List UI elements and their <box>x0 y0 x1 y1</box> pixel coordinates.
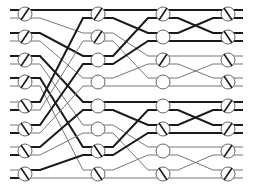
link-line <box>163 64 228 78</box>
link-line <box>163 155 228 170</box>
link-line <box>25 64 98 125</box>
link-line <box>98 133 163 170</box>
link-line <box>25 155 98 170</box>
switch-node <box>156 75 170 89</box>
link-line <box>98 18 163 33</box>
switch-node <box>156 30 170 44</box>
link-line <box>25 133 98 155</box>
link-line <box>98 64 163 78</box>
link-line <box>25 18 98 102</box>
switch-node <box>156 99 170 113</box>
link-line <box>163 18 228 33</box>
link-line <box>25 33 98 56</box>
switch-node <box>91 53 105 67</box>
switch-node <box>91 122 105 136</box>
link-line <box>98 110 163 125</box>
link-line <box>25 41 98 110</box>
switching-network-diagram <box>0 0 253 190</box>
link-line <box>25 78 98 147</box>
link-line <box>98 110 163 147</box>
link-line <box>98 18 163 56</box>
link-line <box>25 18 98 33</box>
switch-node <box>91 75 105 89</box>
switch-node <box>156 144 170 158</box>
link-line <box>163 110 228 125</box>
link-line <box>25 110 98 147</box>
link-line <box>98 41 163 78</box>
link-line <box>98 155 163 170</box>
switch-node <box>91 99 105 113</box>
